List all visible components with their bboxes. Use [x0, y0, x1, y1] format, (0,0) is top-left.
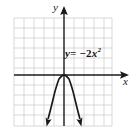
grid-lines	[14, 18, 112, 126]
y-axis-label: y	[53, 2, 58, 13]
equation-label: y= −2x2	[65, 48, 101, 59]
coordinate-plot	[0, 0, 138, 133]
equation-exponent: 2	[97, 46, 101, 54]
y-axis	[60, 6, 68, 126]
equation-operator: = −	[70, 47, 86, 59]
x-axis-label: x	[123, 76, 128, 87]
parabola-graph-figure: y x y= −2x2	[0, 0, 138, 133]
